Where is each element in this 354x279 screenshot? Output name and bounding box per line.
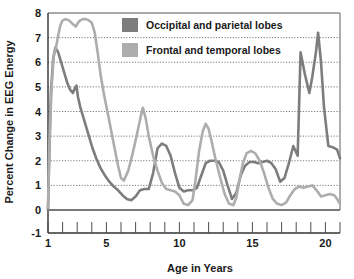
y-tick-label: 8 xyxy=(35,7,41,19)
legend-label: Frontal and temporal lobes xyxy=(146,44,281,56)
y-tick-label: 4 xyxy=(35,106,42,118)
y-axis-title: Percent Change in EEG Energy xyxy=(3,40,15,204)
x-axis-title: Age in Years xyxy=(167,262,233,274)
y-tick-label: 6 xyxy=(35,56,41,68)
x-tick-label: 20 xyxy=(319,237,331,249)
x-tick-label: 1 xyxy=(45,237,51,249)
y-tick-label: 2 xyxy=(35,155,41,167)
x-minor-ticks xyxy=(48,222,340,233)
legend-swatch xyxy=(122,43,138,57)
legend-swatch xyxy=(122,18,138,32)
eeg-line-chart: -1012345678 15101520 Age in Years Percen… xyxy=(0,0,354,279)
chart-figure: -1012345678 15101520 Age in Years Percen… xyxy=(0,0,354,279)
legend-label: Occipital and parietal lobes xyxy=(146,19,283,31)
y-tick-label: -1 xyxy=(31,227,41,239)
y-tick-label: 0 xyxy=(35,204,41,216)
x-tick-label: 5 xyxy=(103,237,109,249)
x-tick-label: 10 xyxy=(173,237,185,249)
x-tick-label: 15 xyxy=(246,237,258,249)
y-tick-label: 1 xyxy=(35,179,41,191)
y-tick-label: 7 xyxy=(35,32,41,44)
y-tick-label: 5 xyxy=(35,81,41,93)
y-tick-label: 3 xyxy=(35,130,41,142)
